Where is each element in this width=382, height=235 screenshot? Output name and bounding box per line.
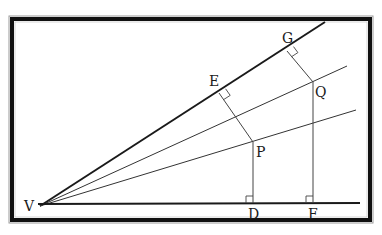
label-Q: Q: [315, 84, 326, 100]
label-E: E: [209, 73, 219, 89]
right-angle-mark-E: [224, 89, 231, 100]
upper-ray: [40, 22, 325, 206]
label-D: D: [248, 206, 259, 222]
label-V: V: [23, 198, 35, 214]
bisector-lower-ray: [40, 110, 356, 206]
perpendicular-QG: [287, 51, 313, 82]
diagram-canvas: V E G P Q D F: [0, 0, 382, 235]
label-G: G: [282, 30, 293, 46]
label-P: P: [256, 144, 265, 160]
right-angle-mark-G: [291, 47, 298, 57]
bisector-upper-ray: [40, 66, 347, 206]
perpendicular-PE: [219, 93, 253, 142]
right-angle-mark-F: [306, 196, 313, 203]
right-angle-mark-D: [246, 196, 253, 203]
base-ray: [38, 203, 360, 204]
label-F: F: [308, 206, 318, 222]
